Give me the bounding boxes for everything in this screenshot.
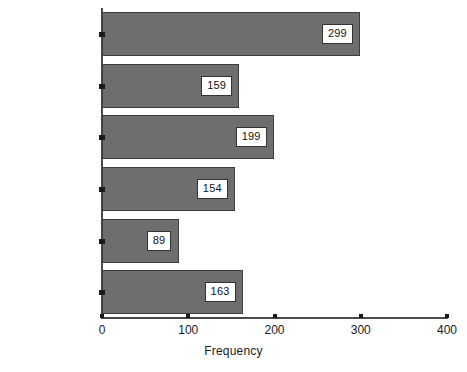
x-axis-tick-label: 400 bbox=[437, 323, 457, 337]
x-axis-tick bbox=[186, 314, 190, 318]
x-axis-tick bbox=[273, 314, 277, 318]
y-axis-tick bbox=[99, 290, 105, 295]
y-axis-tick bbox=[99, 32, 105, 37]
bar-row: 199 bbox=[102, 115, 447, 159]
bar-value-label: 154 bbox=[197, 179, 228, 199]
x-axis-tick bbox=[445, 314, 449, 318]
x-axis-tick-label: 100 bbox=[178, 323, 198, 337]
bar-value-label: 89 bbox=[147, 231, 172, 251]
bar-value-label: 299 bbox=[322, 24, 353, 44]
y-axis-tick bbox=[99, 84, 105, 89]
bar-value-label: 159 bbox=[201, 76, 232, 96]
x-axis-tick bbox=[359, 314, 363, 318]
bar-chart: 29915919915489163 FreedomUnity with my s… bbox=[0, 0, 467, 372]
bar-row: 154 bbox=[102, 167, 447, 211]
bar-row: 159 bbox=[102, 64, 447, 108]
x-axis-tick bbox=[100, 314, 104, 318]
bar-value-label: 163 bbox=[205, 282, 236, 302]
bar-row: 163 bbox=[102, 270, 447, 314]
y-axis-tick bbox=[99, 187, 105, 192]
y-axis-tick bbox=[99, 239, 105, 244]
bar-row: 299 bbox=[102, 12, 447, 56]
bar-value-label: 199 bbox=[236, 127, 267, 147]
x-axis-title: Frequency bbox=[0, 344, 467, 358]
y-axis-tick bbox=[99, 135, 105, 140]
x-axis-tick-label: 300 bbox=[351, 323, 371, 337]
bar-row: 89 bbox=[102, 219, 447, 263]
x-axis-tick-label: 200 bbox=[264, 323, 284, 337]
x-axis-tick-label: 0 bbox=[99, 323, 106, 337]
